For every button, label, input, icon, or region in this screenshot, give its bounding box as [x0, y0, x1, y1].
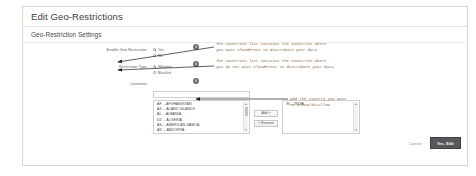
available-countries-column: AF -- AFGHANISTAN AX -- ALAND ISLANDS AL… [153, 100, 250, 134]
add-button[interactable]: Add » [254, 110, 278, 117]
annotation-blacklist-note: The countries list contains the countrie… [216, 58, 334, 70]
scroll-up-icon[interactable]: ▲ [354, 102, 358, 106]
info-icon[interactable]: i [193, 78, 199, 84]
annotation-add-note: Add the country you want to allow/disall… [290, 96, 346, 108]
available-countries-listbox[interactable]: AF -- AFGHANISTAN AX -- ALAND ISLANDS AL… [153, 100, 250, 134]
restriction-type-radio-blacklist[interactable]: Blacklist [153, 70, 467, 75]
selected-list-scrollbar[interactable]: ▲ ▼ [353, 102, 358, 132]
radio-dot-icon [153, 54, 156, 57]
scroll-down-icon[interactable]: ▼ [244, 128, 248, 132]
remove-button[interactable]: « Remove [254, 120, 278, 127]
submit-button[interactable]: Yes, Edit [430, 137, 461, 149]
countries-filter-input[interactable] [153, 91, 250, 98]
radio-dot-icon [153, 65, 156, 68]
section-title: Geo-Restriction Settings [31, 31, 101, 38]
available-list-scrollbar[interactable]: ▲ ▼ [243, 102, 248, 132]
geo-restrictions-dialog: Edit Geo-Restrictions Geo-Restriction Se… [22, 6, 468, 166]
scroll-up-icon[interactable]: ▲ [244, 102, 248, 106]
page-title: Edit Geo-Restrictions [31, 11, 123, 22]
dialog-footer: Cancel Yes, Edit [409, 137, 461, 149]
countries-label: Countries [23, 81, 153, 87]
blacklist-label: Blacklist [158, 71, 171, 75]
enable-radio-no-label: No [158, 54, 163, 58]
transfer-buttons: Add » « Remove [254, 100, 278, 127]
annotation-whitelist-note: The countries list contains the countrie… [216, 41, 326, 53]
enable-label: Enable Geo-Restriction [23, 47, 153, 53]
radio-dot-icon [153, 48, 156, 51]
scroll-down-icon[interactable]: ▼ [354, 128, 358, 132]
form-row-countries: Countries AF -- AFGHANISTAN AX -- ALAND … [23, 81, 467, 134]
list-item[interactable]: AD -- ANDORRA [154, 128, 249, 133]
enable-radio-yes-label: Yes [158, 48, 164, 52]
radio-dot-icon [153, 71, 156, 74]
info-icon[interactable]: i [193, 44, 199, 50]
info-icon[interactable]: i [193, 61, 199, 67]
whitelist-label: Whitelist [158, 65, 172, 69]
geo-restriction-form: Enable Geo-Restriction Yes No [23, 43, 467, 134]
screenshot-root: Edit Geo-Restrictions Geo-Restriction Se… [0, 0, 476, 176]
scroll-thumb[interactable] [245, 107, 248, 116]
restriction-type-label: Restriction Type [23, 64, 153, 70]
cancel-button[interactable]: Cancel [409, 141, 422, 146]
dialog-header: Edit Geo-Restrictions [23, 7, 467, 27]
